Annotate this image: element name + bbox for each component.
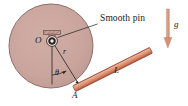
gravity-label-g: g [174, 20, 179, 29]
point-label-A: A [72, 91, 78, 100]
rod-length-label-L: L [114, 66, 119, 75]
gravity-arrow [164, 9, 172, 48]
diagram-canvas [0, 0, 188, 106]
radius-label-r: r [63, 48, 66, 56]
center-point-label-O: O [35, 36, 42, 45]
smooth-pin-bullseye [47, 36, 58, 47]
angle-label-theta: θ [55, 69, 59, 77]
physics-diagram-pinned-disk: Smooth pin O r θ A L g [0, 0, 188, 106]
smooth-pin-label: Smooth pin [100, 14, 145, 24]
